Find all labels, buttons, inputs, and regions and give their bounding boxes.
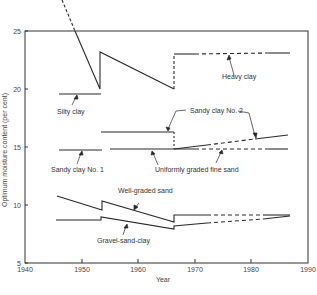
x-axis-title: Year xyxy=(156,276,171,283)
x-tick-label: 1950 xyxy=(74,266,90,273)
series-well-graded-sand xyxy=(57,196,290,222)
label-sandy-clay-1: Sandy clay No. 1 xyxy=(51,166,104,174)
y-tick-labels: 25 20 15 10 5 xyxy=(13,28,21,267)
y-tick-label: 20 xyxy=(13,86,21,93)
label-well-graded-sand: Well-graded sand xyxy=(118,187,173,195)
label-fine-sand: Uniformly graded fine sand xyxy=(155,166,239,174)
series-gravel-sand-clay xyxy=(56,216,290,229)
x-tick-label: 1970 xyxy=(187,266,203,273)
moisture-content-chart: 25 20 15 10 5 1940 1950 1960 1970 1980 1… xyxy=(0,0,317,295)
y-tick-label: 10 xyxy=(13,202,21,209)
label-silty-clay: Silty clay xyxy=(57,108,85,116)
label-sandy-clay-2: Sandy clay No. 2 xyxy=(190,107,243,115)
x-tick-label: 1980 xyxy=(243,266,259,273)
y-tick-label: 15 xyxy=(13,144,21,151)
label-gravel-sand-clay: Gravel-sand-clay xyxy=(97,237,150,245)
y-axis-title: Optimum moisture content (per cent) xyxy=(1,93,9,207)
x-tick-label: 1990 xyxy=(300,266,316,273)
y-tick-label: 25 xyxy=(13,28,21,35)
x-tick-label: 1940 xyxy=(17,266,33,273)
label-heavy-clay: Heavy clay xyxy=(222,73,257,81)
x-tick-labels: 1940 1950 1960 1970 1980 1990 xyxy=(17,266,316,273)
x-axis xyxy=(82,259,251,263)
series-sandy-clay-2 xyxy=(101,132,288,149)
x-tick-label: 1960 xyxy=(130,266,146,273)
